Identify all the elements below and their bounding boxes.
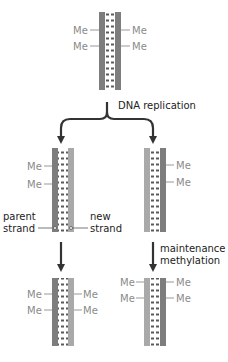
methyl-label: Me bbox=[132, 25, 147, 36]
methyl-label: Me bbox=[176, 160, 191, 171]
maintenance-methylation-label: maintenance bbox=[160, 243, 226, 254]
new-strand-label: strand bbox=[90, 223, 122, 234]
maintenance-methylation-label: methylation bbox=[160, 255, 220, 266]
methyl-label: Me bbox=[27, 161, 42, 172]
methyl-label: Me bbox=[120, 293, 135, 304]
methyl-label: Me bbox=[27, 289, 42, 300]
methyl-label: Me bbox=[83, 305, 98, 316]
right-hemimethylated-dna: Me Me bbox=[144, 148, 191, 232]
dna-methylation-diagram: Me Me Me Me DNA replication Me Me parent… bbox=[0, 0, 228, 362]
parent-strand-label: parent bbox=[3, 211, 36, 222]
parent-strand-label: strand bbox=[3, 223, 35, 234]
left-hemimethylated-dna: Me Me parent strand new strand bbox=[3, 148, 122, 234]
new-strand-label: new bbox=[90, 211, 111, 222]
methyl-label: Me bbox=[176, 277, 191, 288]
methyl-label: Me bbox=[132, 41, 147, 52]
bottom-left-dna-fully-methylated: Me Me Me Me bbox=[27, 278, 98, 346]
methyl-label: Me bbox=[120, 277, 135, 288]
methyl-label: Me bbox=[27, 305, 42, 316]
methyl-label: Me bbox=[176, 177, 191, 188]
methyl-label: Me bbox=[27, 179, 42, 190]
methyl-label: Me bbox=[176, 293, 191, 304]
top-dna-fully-methylated: Me Me Me Me bbox=[73, 12, 147, 90]
methyl-label: Me bbox=[83, 289, 98, 300]
methyl-label: Me bbox=[73, 25, 88, 36]
bottom-right-dna-fully-methylated: Me Me Me Me bbox=[120, 277, 191, 346]
methyl-label: Me bbox=[73, 41, 88, 52]
dna-replication-label: DNA replication bbox=[118, 100, 196, 111]
